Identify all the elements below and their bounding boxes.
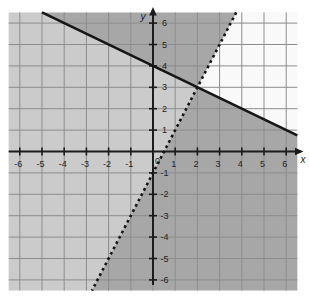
y-tick-label: -2 (160, 189, 168, 199)
y-tick-label: -6 (160, 275, 168, 285)
y-tick-label: -4 (160, 232, 168, 242)
x-tick-label: -2 (103, 159, 111, 169)
x-tick-label: -4 (59, 159, 67, 169)
y-tick-label: 1 (162, 125, 167, 135)
y-tick-label: 5 (162, 40, 167, 50)
x-tick-label: -3 (81, 159, 89, 169)
x-tick-label: -6 (14, 159, 22, 169)
y-tick-label: 4 (162, 61, 167, 71)
y-tick-label: -1 (160, 168, 168, 178)
x-tick-label: -1 (125, 159, 133, 169)
graph-canvas: -6-5-4-3-2-1123456654321-1-2-3-4-5-60yx (0, 0, 309, 298)
x-tick-label: -5 (36, 159, 44, 169)
origin-label: 0 (155, 156, 160, 166)
y-tick-label: -5 (160, 254, 168, 264)
x-tick-label: 1 (171, 159, 176, 169)
x-tick-label: 3 (216, 159, 221, 169)
inequality-graph-figure: -6-5-4-3-2-1123456654321-1-2-3-4-5-60yx (0, 0, 309, 298)
x-tick-label: 4 (238, 159, 243, 169)
y-axis-label: y (139, 10, 146, 22)
x-tick-label: 6 (282, 159, 287, 169)
y-axis-arrow (149, 7, 157, 16)
x-axis-label: x (300, 154, 307, 165)
y-tick-label: 3 (162, 82, 167, 92)
x-tick-label: 5 (260, 159, 265, 169)
y-tick-label: -3 (160, 211, 168, 221)
y-tick-label: 2 (162, 104, 167, 114)
x-tick-label: 2 (193, 159, 198, 169)
y-tick-label: 6 (162, 18, 167, 28)
page: -6-5-4-3-2-1123456654321-1-2-3-4-5-60yx (0, 0, 309, 298)
